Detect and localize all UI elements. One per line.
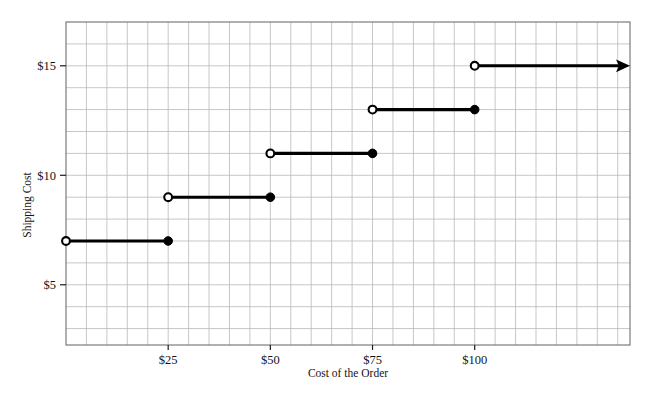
y-tick-label: $5 xyxy=(44,278,57,292)
x-tick-label: $100 xyxy=(462,353,487,367)
closed-endpoint-marker xyxy=(368,149,377,158)
closed-endpoint-marker xyxy=(470,105,479,114)
open-endpoint-marker xyxy=(471,62,479,70)
y-axis-title: Shipping Cost xyxy=(21,171,34,237)
closed-endpoint-marker xyxy=(164,237,173,246)
x-tick-label: $50 xyxy=(261,353,280,367)
step-function-chart: $25$50$75$100 $5$10$15 Cost of the Order… xyxy=(0,0,654,403)
chart-canvas: $25$50$75$100 $5$10$15 Cost of the Order… xyxy=(0,0,654,403)
open-endpoint-marker xyxy=(266,149,274,157)
x-tick-label: $25 xyxy=(159,353,178,367)
open-endpoint-marker xyxy=(62,237,70,245)
open-endpoint-marker xyxy=(369,106,377,114)
x-axis-title: Cost of the Order xyxy=(308,367,388,379)
x-tick-label: $75 xyxy=(363,353,382,367)
closed-endpoint-marker xyxy=(266,193,275,202)
open-endpoint-marker xyxy=(164,193,172,201)
y-tick-label: $10 xyxy=(37,169,56,183)
y-tick-label: $15 xyxy=(37,59,56,73)
chart-background xyxy=(0,0,654,403)
